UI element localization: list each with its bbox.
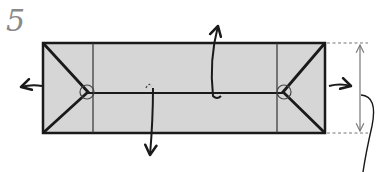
arrow-left-icon [21,85,42,87]
arrow-right-icon [329,85,351,87]
origami-diagram [0,0,384,172]
